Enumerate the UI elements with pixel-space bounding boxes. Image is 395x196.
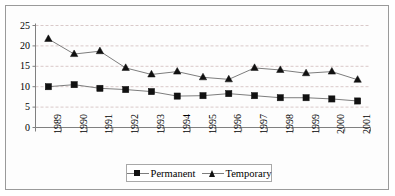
x-tick-label: 1999 [311, 114, 321, 134]
y-tick-label: 5 [14, 102, 30, 112]
x-tick-label: 1995 [208, 114, 218, 134]
x-tick-label: 2001 [362, 114, 372, 134]
chart-figure: 0510152025 19891990199119921993199419951… [0, 0, 395, 196]
x-tick-label: 1994 [182, 114, 192, 134]
data-series-layer [45, 35, 362, 104]
x-tick-label: 1993 [156, 114, 166, 134]
square-marker-icon [127, 168, 149, 178]
legend-label-temporary: Temporary [226, 168, 272, 179]
y-tick-label: 20 [14, 41, 30, 51]
x-tick-label: 1991 [104, 114, 114, 134]
x-tick-label: 1997 [259, 114, 269, 134]
y-tick-label: 25 [14, 21, 30, 31]
legend-entry-temporary: Temporary [202, 168, 272, 179]
x-tick-label: 1990 [79, 114, 89, 134]
legend-entry-permanent: Permanent [127, 168, 196, 179]
x-tick-label: 2000 [336, 114, 346, 134]
y-tick-label: 0 [14, 123, 30, 133]
x-tick-label: 1992 [130, 114, 140, 134]
x-tick-label: 1998 [285, 114, 295, 134]
x-tick-label: 1989 [53, 114, 63, 134]
triangle-marker-icon [202, 168, 224, 178]
legend-label-permanent: Permanent [151, 168, 196, 179]
y-tick-label: 10 [14, 82, 30, 92]
x-tick-label: 1996 [233, 114, 243, 134]
chart-legend: Permanent Temporary [126, 164, 272, 182]
y-tick-label: 15 [14, 61, 30, 71]
